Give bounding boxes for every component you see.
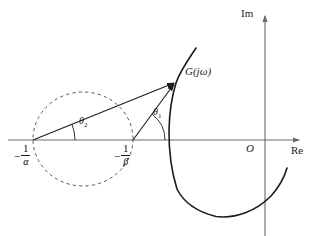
minus-sign-beta: − xyxy=(114,150,120,162)
minus-sign-alpha: − xyxy=(14,150,20,162)
theta-1-label: θ1 xyxy=(153,107,161,120)
fraction-stack-beta: 1 β xyxy=(121,144,130,167)
theta-2-label: θ2 xyxy=(79,116,87,129)
nyquist-figure: Im Re O G(jω) θ2 θ1 − 1 α − 1 β xyxy=(0,0,320,236)
numerator-alpha: 1 xyxy=(21,144,30,155)
fraction-stack-alpha: 1 α xyxy=(21,144,30,167)
denominator-alpha: α xyxy=(21,156,30,167)
numerator-beta: 1 xyxy=(121,144,130,155)
real-axis-label: Re xyxy=(291,145,303,156)
theta-2-subscript: 2 xyxy=(84,121,88,129)
minus-one-over-beta-label: − 1 β xyxy=(114,144,130,167)
minus-one-over-alpha-label: − 1 α xyxy=(14,144,30,167)
theta-1-subscript: 1 xyxy=(158,112,162,120)
imaginary-axis-label: Im xyxy=(241,8,253,19)
denominator-beta: β xyxy=(121,156,130,167)
origin-label: O xyxy=(246,143,254,154)
theta-2-arc xyxy=(72,124,75,140)
g-jomega-label: G(jω) xyxy=(185,66,211,77)
